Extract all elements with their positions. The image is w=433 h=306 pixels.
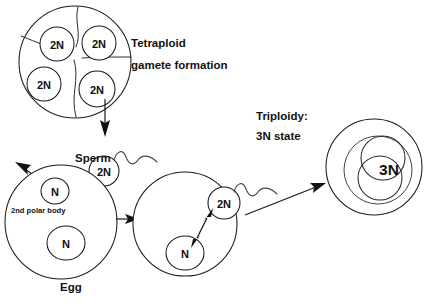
- egg-nucleus-label: N: [181, 248, 189, 260]
- arrow-shaft: [245, 187, 316, 215]
- tetraploid-label-line1: Tetraploid: [131, 37, 186, 49]
- triploidy-label-line2: 3N state: [256, 130, 301, 142]
- triploidy-label-line1: Triploidy:: [256, 110, 308, 122]
- nucleus-label: 2N: [50, 39, 64, 51]
- zygote-cell-membrane: [326, 119, 422, 215]
- egg-nucleus-label: N: [62, 238, 70, 250]
- fertilized-sperm-flagellum: [234, 184, 277, 196]
- tetraploid-nucleus-bottom-left: 2N: [27, 67, 61, 101]
- fertilized-egg-cell: 2N N: [133, 172, 277, 276]
- zygote-formation-arrow: [245, 183, 326, 215]
- tetraploid-gamete-cell: 2N 2N 2N 2N: [19, 6, 131, 118]
- fertilized-egg-nucleus: N: [166, 236, 204, 270]
- tetraploid-nucleus-top-left: 2N: [40, 27, 74, 61]
- sperm-head-label: 2N: [97, 166, 111, 178]
- egg-label: Egg: [60, 281, 82, 293]
- tetraploid-nucleus-bottom-right: 2N: [79, 71, 115, 107]
- arrow-head: [15, 162, 31, 175]
- polar-body-text-label: 2nd polar body: [11, 206, 66, 215]
- nucleus-label: 2N: [37, 79, 51, 91]
- nucleus-label: 2N: [90, 84, 104, 96]
- polar-body-nucleus-label: N: [51, 186, 59, 198]
- tetraploid-label-line2: gamete formation: [131, 59, 228, 71]
- egg-cell: N 2nd polar body N: [5, 165, 117, 279]
- triploid-zygote-cell: 3N: [326, 119, 422, 215]
- fertilized-sperm-nucleus: 2N: [208, 187, 240, 219]
- sperm-flagellum: [114, 152, 157, 164]
- sperm-nucleus-label: 2N: [217, 198, 231, 210]
- sperm-label: Sperm: [75, 152, 111, 164]
- triploidy-diagram: 2N 2N 2N 2N Tetraploid gamete formation: [0, 0, 433, 306]
- tetraploid-nucleus-top-right: 2N: [82, 26, 116, 60]
- egg-polar-body: N: [41, 178, 69, 204]
- egg-nucleus: N: [47, 226, 85, 260]
- zygote-ploidy-label: 3N: [379, 161, 399, 178]
- nucleus-label: 2N: [92, 38, 106, 50]
